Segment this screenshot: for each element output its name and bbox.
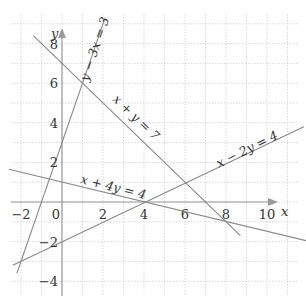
- y-tick-label: 6: [50, 76, 58, 91]
- x-tick-label: 10: [259, 207, 276, 222]
- line-x-4y-4: [9, 169, 306, 240]
- y-tick-label: −2: [39, 235, 58, 250]
- x-axis-arrow-icon: [268, 198, 278, 206]
- x-axis-label: x: [281, 204, 289, 219]
- line-label-x-2y-4: x − 2y = 4: [214, 127, 281, 170]
- line-label-y-3x-3: y − 3x = 3: [76, 15, 112, 84]
- x-tick-label: −2: [11, 207, 30, 222]
- x-tick-label: 6: [181, 207, 189, 222]
- x-tick-label: 0: [52, 207, 60, 222]
- y-tick-label: −4: [39, 274, 58, 289]
- x-tick-label: 4: [140, 207, 148, 222]
- y-axis-arrow-icon: [58, 28, 66, 38]
- x-tick-label: 2: [99, 207, 107, 222]
- y-axis-label: y: [50, 26, 59, 41]
- line-label-x-4y-4: x + 4y = 4: [79, 171, 148, 202]
- y-tick-label: 4: [50, 116, 58, 131]
- graph: −20246810−4−22468 y x y − 3x = 3 x + y =…: [0, 0, 306, 300]
- x-tick-label: 8: [222, 207, 230, 222]
- y-tick-label: 2: [50, 155, 58, 170]
